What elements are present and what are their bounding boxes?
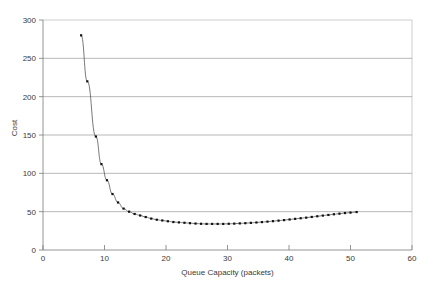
data-point [183, 222, 185, 224]
data-point [233, 223, 235, 225]
data-point [95, 135, 97, 137]
data-point [100, 163, 102, 165]
data-point [261, 221, 263, 223]
data-point [327, 214, 329, 216]
data-point [289, 218, 291, 220]
data-point [172, 221, 174, 223]
y-tick-label-0: 0 [32, 246, 37, 255]
data-point [322, 214, 324, 216]
data-point [150, 217, 152, 219]
data-point [211, 223, 213, 225]
data-point [294, 218, 296, 220]
data-point [333, 213, 335, 215]
data-point [356, 211, 358, 213]
data-point [194, 222, 196, 224]
cost-vs-queue-capacity-chart: 0 50 100 150 200 250 300 0 10 20 30 40 5… [0, 0, 433, 290]
data-point [161, 219, 163, 221]
data-point [228, 223, 230, 225]
data-point [111, 193, 113, 195]
y-tick-label-50: 50 [27, 208, 36, 217]
x-tick-label-0: 0 [41, 254, 46, 263]
data-point [266, 221, 268, 223]
data-point [205, 223, 207, 225]
y-tick-label-200: 200 [23, 93, 37, 102]
x-tick-label-30: 30 [223, 254, 232, 263]
data-point [255, 221, 257, 223]
data-point [122, 208, 124, 210]
data-point [272, 220, 274, 222]
data-point [167, 220, 169, 222]
data-point [305, 217, 307, 219]
data-point [244, 222, 246, 224]
data-point [86, 80, 88, 82]
data-point [316, 215, 318, 217]
y-tick-label-150: 150 [23, 131, 37, 140]
x-tick-label-10: 10 [100, 254, 109, 263]
y-tick-label-300: 300 [23, 16, 37, 25]
data-point [250, 222, 252, 224]
data-point [134, 213, 136, 215]
data-point [128, 211, 130, 213]
y-tick-label-250: 250 [23, 54, 37, 63]
data-point [200, 223, 202, 225]
x-axis-title: Queue Capacity (packets) [181, 268, 274, 277]
data-point [344, 212, 346, 214]
data-point [80, 34, 82, 36]
data-point [145, 216, 147, 218]
data-point [349, 211, 351, 213]
data-point [189, 222, 191, 224]
data-point [311, 216, 313, 218]
data-point [156, 219, 158, 221]
chart-figure: 0 50 100 150 200 250 300 0 10 20 30 40 5… [0, 0, 433, 290]
chart-background [0, 0, 433, 290]
x-tick-label-50: 50 [346, 254, 355, 263]
data-point [117, 201, 119, 203]
data-point [239, 222, 241, 224]
y-tick-label-100: 100 [23, 169, 37, 178]
data-point [139, 214, 141, 216]
data-point [217, 223, 219, 225]
x-tick-label-20: 20 [162, 254, 171, 263]
data-point [277, 220, 279, 222]
y-axis-title: Cost [10, 119, 19, 136]
data-point [222, 223, 224, 225]
x-tick-label-40: 40 [285, 254, 294, 263]
data-point [178, 221, 180, 223]
data-point [338, 213, 340, 215]
x-tick-label-60: 60 [408, 254, 417, 263]
data-point [300, 217, 302, 219]
data-point [106, 179, 108, 181]
data-point [283, 219, 285, 221]
